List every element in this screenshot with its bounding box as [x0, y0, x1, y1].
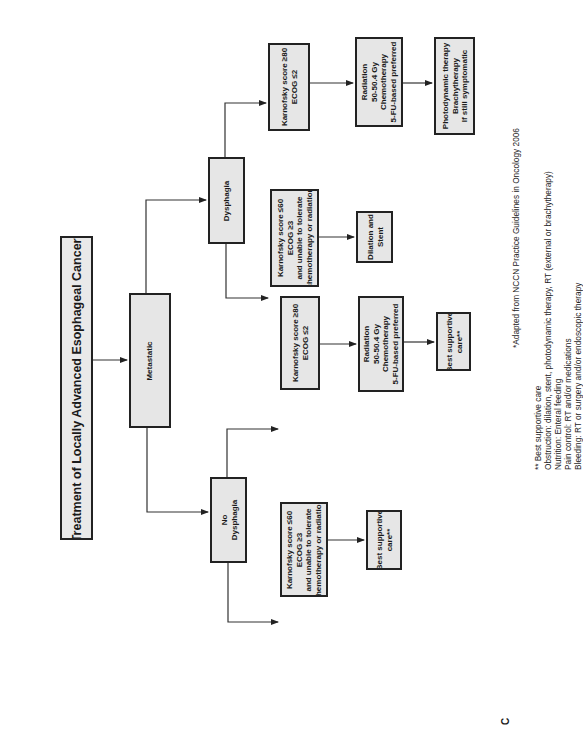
node-no-dysphagia-kps-good: Karnofsky score ≥80 ECOG ≤2: [280, 296, 320, 390]
node-label: Dilation and Stent: [365, 214, 384, 260]
footnote-source: *Adapted from NCCN Practice Guidelines i…: [511, 128, 521, 348]
node-no-dysphagia-label: No Dysphagia: [219, 500, 238, 540]
node-label: Photodynamic therapy Brachytherapy If st…: [440, 43, 469, 129]
node-label: Best supportive care**: [444, 312, 463, 371]
node-label: Radiation 50-50.4 Gy Chemotherapy 5-FU-b…: [360, 42, 398, 123]
node-label: Best supportive care**: [375, 510, 394, 570]
node-no-dysphagia-radiation: Radiation 50-50.4 Gy Chemotherapy 5-FU-b…: [358, 296, 404, 392]
node-dysphagia-label: Dysphagia: [222, 180, 232, 220]
footnote-best-supportive-care: ** Best supportive care Obstruction: dil…: [533, 171, 583, 470]
node-metastatic-label: Metastatic: [145, 341, 155, 380]
node-metastatic: Metastatic: [129, 293, 171, 428]
node-no-dysphagia: No Dysphagia: [210, 477, 247, 563]
node-no-dysphagia-kps-poor: Karnofsky score ≤60 ECOG ≥3 and unable t…: [280, 502, 328, 597]
node-dysphagia-radiation: Radiation 50-50.4 Gy Chemotherapy 5-FU-b…: [355, 37, 403, 127]
node-dilation-stent: Dilation and Stent: [356, 211, 393, 263]
diagram-title: Treatment of Locally Advanced Esophageal…: [70, 236, 84, 540]
panel-label: C: [500, 718, 511, 725]
node-dysphagia: Dysphagia: [208, 157, 245, 244]
node-photodynamic-therapy: Photodynamic therapy Brachytherapy If st…: [434, 37, 475, 135]
node-dysphagia-kps-good: Karnofsky score ≥80 ECOG ≤2: [268, 43, 310, 131]
node-label: Karnofsky score ≥80 ECOG ≤2: [291, 304, 310, 382]
node-best-supportive-care-mid: Best supportive care**: [436, 312, 471, 371]
title-box: Treatment of Locally Advanced Esophageal…: [60, 236, 93, 540]
node-label: Radiation 50-50.4 Gy Chemotherapy 5-FU-b…: [362, 304, 400, 385]
node-dysphagia-kps-poor: Karnofsky score ≤60 ECOG ≥3 and unable t…: [270, 189, 319, 287]
node-label: Karnofsky score ≥80 ECOG ≤2: [280, 48, 299, 126]
node-label: Karnofsky score ≤60 ECOG ≥3 and unable t…: [285, 502, 323, 597]
node-best-supportive-care-bottom: Best supportive care**: [366, 510, 402, 570]
node-label: Karnofsky score ≤60 ECOG ≥3 and unable t…: [276, 189, 314, 287]
